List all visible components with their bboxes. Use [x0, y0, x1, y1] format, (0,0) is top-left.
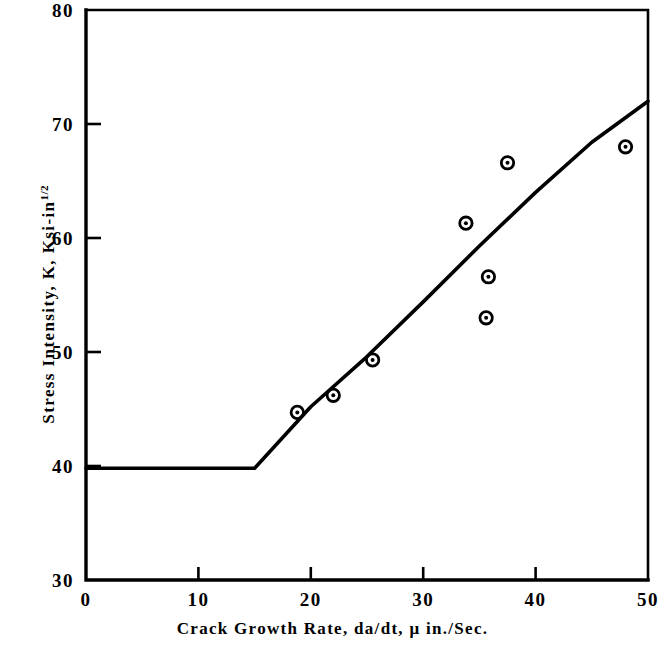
y-axis-title-exponent: 1/2 — [38, 185, 50, 201]
x-tick-label: 10 — [168, 590, 228, 609]
y-axis-title: Stress Intensity, K, Ksi-in1/2 — [39, 114, 58, 494]
data-point-center-dot — [331, 393, 335, 397]
axis-frame-left-bottom — [86, 10, 648, 580]
x-tick-label: 0 — [56, 590, 116, 609]
y-tick-label: 80 — [14, 1, 74, 20]
data-point-center-dot — [624, 145, 628, 149]
trend-line — [86, 101, 648, 468]
x-tick-label: 20 — [281, 590, 341, 609]
data-point-center-dot — [506, 161, 510, 165]
plot-area — [0, 0, 665, 650]
data-point-center-dot — [464, 221, 468, 225]
x-tick-label: 50 — [618, 590, 665, 609]
data-point-center-dot — [295, 410, 299, 414]
data-point-center-dot — [484, 316, 488, 320]
axis-frame-top-right — [86, 10, 648, 580]
x-tick-label: 40 — [506, 590, 566, 609]
y-tick-label: 70 — [14, 115, 74, 134]
x-tick-label: 30 — [393, 590, 453, 609]
y-tick-label: 40 — [14, 457, 74, 476]
x-axis-title: Crack Growth Rate, da/dt, μ in./Sec. — [0, 620, 665, 637]
crack-growth-rate-chart: Stress Intensity, K, Ksi-in1/2 Crack Gro… — [0, 0, 665, 650]
data-point-center-dot — [486, 275, 490, 279]
y-tick-label: 60 — [14, 229, 74, 248]
y-tick-label: 30 — [14, 571, 74, 590]
data-point-center-dot — [371, 358, 375, 362]
y-tick-label: 50 — [14, 343, 74, 362]
